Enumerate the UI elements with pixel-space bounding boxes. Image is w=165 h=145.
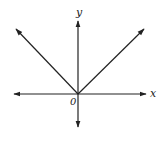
- left-branch-line: [16, 29, 78, 94]
- graph-canvas: y x 0: [0, 0, 165, 145]
- origin-label: 0: [70, 96, 77, 107]
- right-branch-line: [78, 29, 144, 94]
- y-axis-label: y: [75, 6, 83, 19]
- x-axis-label: x: [150, 87, 157, 100]
